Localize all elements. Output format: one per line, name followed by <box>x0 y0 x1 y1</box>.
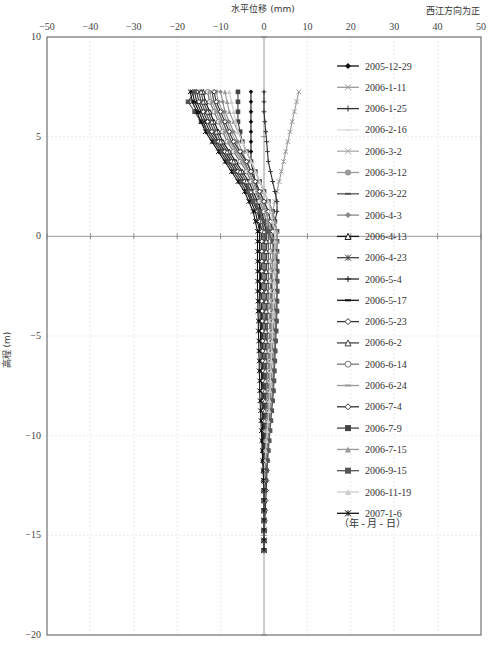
legend-item: 2007-1-6 <box>337 508 402 519</box>
legend: 2005-12-292006-1-112006-1-252006-2-16200… <box>337 61 412 530</box>
y-tick-label: −15 <box>25 529 41 540</box>
y-tick-label: 5 <box>36 131 41 142</box>
y-tick-label: −5 <box>30 330 41 341</box>
legend-label: 2006-11-19 <box>365 487 411 498</box>
x-tick-label: −40 <box>83 21 99 32</box>
legend-label: 2006-2-16 <box>365 124 407 135</box>
legend-item: 2006-3-12 <box>337 167 407 178</box>
legend-label: 2006-6-14 <box>365 359 407 370</box>
legend-label: 2006-6-24 <box>365 380 407 391</box>
legend-label: 2006-4-23 <box>365 252 407 263</box>
displacement-chart: −50−40−30−20−10010203040501050−5−10−15−2… <box>0 0 493 651</box>
legend-label: 2006-1-11 <box>365 82 406 93</box>
legend-label: 2005-12-29 <box>365 61 412 72</box>
legend-item: 2006-5-4 <box>337 274 402 285</box>
y-tick-label: −20 <box>25 629 41 640</box>
legend-label: 2006-5-23 <box>365 316 407 327</box>
series-layer <box>186 90 301 553</box>
y-axis-title: 高程 (m) <box>1 332 12 369</box>
legend-item: 2005-12-29 <box>337 61 412 72</box>
legend-footer: （年 - 月 - 日） <box>339 517 406 529</box>
legend-item: 2006-4-13 <box>337 231 407 242</box>
x-tick-label: 20 <box>346 21 356 32</box>
legend-item: 2006-7-15 <box>337 444 407 455</box>
legend-item: 2006-5-17 <box>337 295 407 306</box>
legend-label: 2006-7-15 <box>365 444 407 455</box>
direction-note: 西江方向为正 <box>426 5 480 16</box>
legend-item: 2006-7-4 <box>337 401 402 412</box>
x-tick-label: −30 <box>126 21 142 32</box>
legend-item: 2006-1-25 <box>337 103 407 114</box>
legend-label: 2006-5-4 <box>365 274 402 285</box>
x-tick-label: −20 <box>169 21 185 32</box>
legend-item: 2006-2-16 <box>337 124 407 135</box>
x-tick-label: 30 <box>389 21 399 32</box>
x-axis-title: 水平位移 (mm) <box>231 3 294 14</box>
legend-item: 2006-9-15 <box>337 465 407 476</box>
legend-item: 2006-4-23 <box>337 252 407 263</box>
legend-label: 2006-7-9 <box>365 423 402 434</box>
legend-item: 2006-6-24 <box>337 380 407 391</box>
legend-label: 2006-1-25 <box>365 103 407 114</box>
legend-label: 2006-9-15 <box>365 465 407 476</box>
legend-label: 2006-4-13 <box>365 231 407 242</box>
legend-label: 2006-6-2 <box>365 337 402 348</box>
y-tick-label: 10 <box>31 31 41 42</box>
x-tick-label: −50 <box>39 21 55 32</box>
y-tick-label: 0 <box>36 230 41 241</box>
legend-label: 2006-5-17 <box>365 295 407 306</box>
series-2006-5-23 <box>194 90 266 553</box>
x-tick-label: 10 <box>302 21 312 32</box>
x-tick-label: 50 <box>476 21 486 32</box>
axes: −50−40−30−20−10010203040501050−5−10−15−2… <box>25 21 486 640</box>
y-tick-label: −10 <box>25 430 41 441</box>
legend-item: 2006-11-19 <box>337 487 411 498</box>
legend-label: 2006-4-3 <box>365 210 402 221</box>
legend-label: 2007-1-6 <box>365 508 402 519</box>
legend-item: 2006-3-2 <box>337 146 402 157</box>
x-tick-label: 0 <box>262 21 267 32</box>
legend-item: 2006-1-11 <box>337 82 406 93</box>
legend-item: 2006-7-9 <box>337 423 402 434</box>
legend-item: 2006-5-23 <box>337 316 407 327</box>
legend-label: 2006-3-22 <box>365 188 407 199</box>
legend-label: 2006-3-12 <box>365 167 407 178</box>
x-tick-label: −10 <box>213 21 229 32</box>
legend-item: 2006-4-3 <box>337 210 402 221</box>
legend-label: 2006-3-2 <box>365 146 402 157</box>
legend-item: 2006-3-22 <box>337 188 407 199</box>
legend-item: 2006-6-2 <box>337 337 402 348</box>
legend-label: 2006-7-4 <box>365 401 402 412</box>
legend-item: 2006-6-14 <box>337 359 407 370</box>
x-tick-label: 40 <box>433 21 443 32</box>
